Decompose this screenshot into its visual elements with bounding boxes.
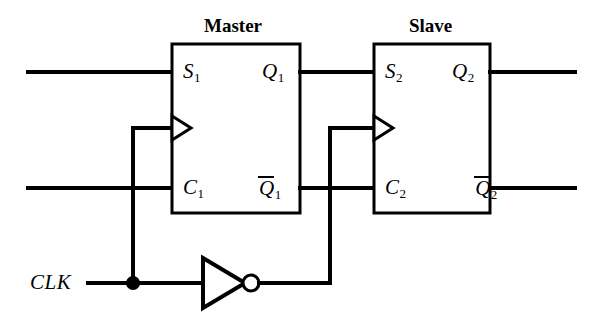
pin-sub-q1: 1 bbox=[278, 70, 285, 85]
clock-inverter-bubble-icon bbox=[243, 275, 259, 291]
pin-label-q2-bar: Q2 bbox=[475, 177, 497, 201]
slave-block-title: Slave bbox=[409, 16, 452, 35]
clk-signal-label: CLK bbox=[30, 272, 71, 293]
pin-label-s1: S1 bbox=[183, 61, 201, 84]
pin-label-c1: C1 bbox=[183, 177, 204, 200]
pin-base-q1-bar: Q bbox=[259, 178, 274, 199]
clock-inverter-triangle-icon bbox=[203, 258, 245, 308]
clk-junction-dot bbox=[126, 276, 140, 290]
pin-label-s2: S2 bbox=[385, 61, 403, 84]
pin-label-c2: C2 bbox=[385, 177, 406, 200]
pin-sub-c2: 2 bbox=[400, 186, 407, 201]
pin-base-s1: S bbox=[183, 59, 194, 83]
pin-sub-s1: 1 bbox=[194, 70, 201, 85]
pin-base-c1: C bbox=[183, 175, 197, 199]
pin-sub-c1: 1 bbox=[198, 186, 205, 201]
pin-base-c2: C bbox=[385, 175, 399, 199]
pin-label-q1-bar: Q1 bbox=[259, 177, 281, 201]
pin-label-q2: Q2 bbox=[452, 61, 474, 84]
pin-base-q1: Q bbox=[262, 59, 277, 83]
master-slave-flipflop-diagram: Master Slave S1 C1 Q1 Q1 S2 C2 Q2 Q2 CLK bbox=[0, 0, 604, 321]
pin-sub-q2: 2 bbox=[468, 70, 475, 85]
wire-clk-to-master-clock bbox=[133, 128, 172, 283]
master-block-title: Master bbox=[204, 16, 262, 35]
pin-sub-s2: 2 bbox=[396, 70, 403, 85]
pin-sub-q2-bar: 2 bbox=[491, 187, 498, 202]
pin-base-s2: S bbox=[385, 59, 396, 83]
pin-sub-q1-bar: 1 bbox=[275, 187, 282, 202]
pin-label-q1: Q1 bbox=[262, 61, 284, 84]
circuit-schematic-canvas bbox=[0, 0, 604, 321]
pin-base-q2-bar: Q bbox=[475, 178, 490, 199]
pin-base-q2: Q bbox=[452, 59, 467, 83]
